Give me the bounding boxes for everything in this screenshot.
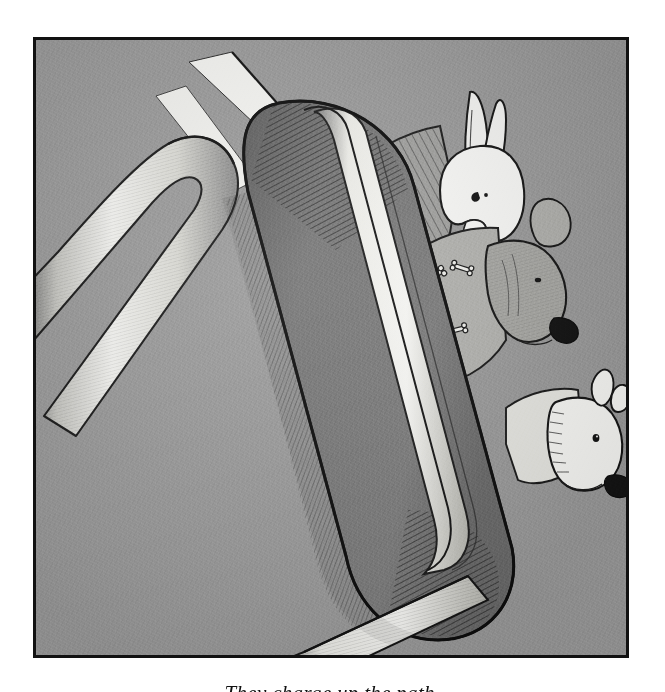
caption-text: They charge up the path.: [0, 681, 665, 692]
illustration-artwork: [36, 40, 626, 655]
handrail: [36, 137, 238, 436]
illustration-page: They charge up the path.: [0, 0, 665, 692]
illustration-plate: [33, 37, 629, 658]
dog-white: [506, 370, 626, 498]
